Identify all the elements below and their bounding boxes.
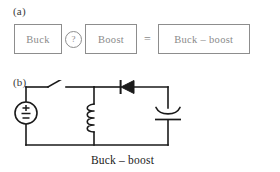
term-boost-bracket: Boost [85,24,137,54]
circuit-caption: Buck – boost [0,154,245,166]
equals-sign: = [144,32,151,47]
voltage-source-icon [15,102,37,124]
panel-label-a: (a) [13,6,26,17]
diode-icon [121,80,134,94]
symbolic-equation: Buck ? Boost = Buck – boost [14,22,272,56]
circuit-svg [12,80,198,152]
inductor-coil-path [87,104,94,132]
open-switch-icon [48,80,62,87]
circuit-schematic [12,80,198,152]
figure-buck-boost-converter: (a) Buck ? Boost = Buck – boost (b) [0,0,280,172]
diode-triangle [121,81,134,94]
term-buck-bracket: Buck [14,24,62,54]
question-mark-symbol: ? [72,35,76,44]
inductor-coil-icon [87,104,94,132]
term-boost-label: Boost [98,34,124,45]
question-circle-icon: ? [65,31,82,48]
term-result-bracket: Buck – boost [158,24,250,54]
term-buck-label: Buck [26,34,49,45]
term-result-label: Buck – boost [174,34,233,45]
polarized-capacitor-icon [155,108,181,120]
